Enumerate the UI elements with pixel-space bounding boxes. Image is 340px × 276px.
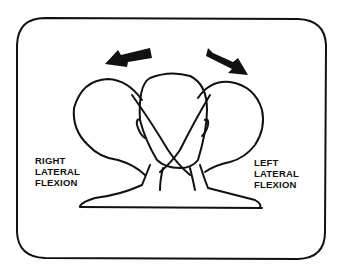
arrow-down-right-icon <box>206 48 248 75</box>
right-lateral-flexion-label: RIGHT LATERAL FLEXION <box>35 155 80 188</box>
label-line: LEFT <box>254 157 299 168</box>
head-right-tilted-inner <box>160 95 210 172</box>
label-line: LATERAL <box>254 168 299 179</box>
left-lateral-flexion-label: LEFT LATERAL FLEXION <box>254 157 299 190</box>
label-line: RIGHT <box>35 155 80 166</box>
frame-border <box>17 18 326 259</box>
label-line: FLEXION <box>254 179 299 190</box>
label-line: LATERAL <box>35 166 80 177</box>
arrow-up-left-icon <box>105 48 152 67</box>
shoulder-base <box>80 207 262 208</box>
neck-center-right <box>190 168 195 190</box>
diagram-canvas <box>0 0 340 276</box>
head-left-tilted <box>74 79 145 175</box>
label-line: FLEXION <box>35 177 80 188</box>
neck-right <box>200 165 260 208</box>
